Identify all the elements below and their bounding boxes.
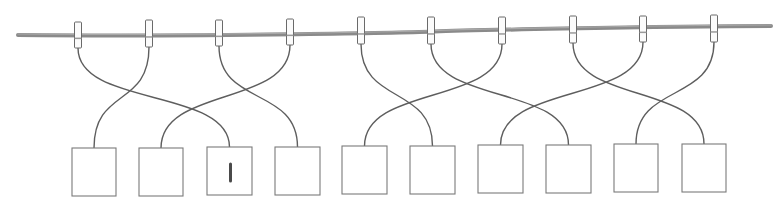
clothespin-7[interactable] [499, 17, 506, 44]
clothespin-icon [428, 17, 435, 44]
clothespin-spring [287, 35, 294, 37]
box-outline [546, 145, 591, 193]
string-clip-5-to-box-6 [361, 44, 433, 146]
string-clip-1-to-box-3 [78, 48, 230, 147]
clothespin-icon [358, 17, 365, 44]
clothespin-6[interactable] [428, 17, 435, 44]
box-outline [275, 147, 320, 195]
box-outline [139, 148, 183, 196]
clothespin-icon [287, 19, 294, 45]
clothespin-icon [216, 20, 223, 46]
answer-box-4[interactable] [275, 147, 320, 195]
clothespin-spring [75, 38, 82, 40]
box-outline [72, 148, 116, 196]
string-clip-9-to-box-7 [501, 42, 644, 145]
answer-box-10[interactable] [682, 144, 726, 192]
answer-box-7[interactable] [478, 145, 523, 193]
answer-box-6[interactable] [410, 146, 455, 194]
string-clip-10-to-box-9 [636, 42, 714, 144]
clothespin-3[interactable] [216, 20, 223, 46]
clothespin-spring [216, 36, 223, 38]
answer-box-8[interactable] [546, 145, 591, 193]
clothespin-1[interactable] [75, 22, 82, 48]
answer-box-1[interactable] [72, 148, 116, 196]
box-outline [682, 144, 726, 192]
clothespin-8[interactable] [570, 16, 577, 43]
clothesline-rope [18, 25, 771, 35]
string-clip-2-to-box-1 [94, 47, 149, 148]
clothespin-icon [499, 17, 506, 44]
string-clip-7-to-box-5 [365, 44, 503, 146]
clothespin-spring [640, 32, 647, 33]
clothespin-10[interactable] [711, 15, 718, 42]
clothespin-spring [499, 33, 506, 35]
answer-box-5[interactable] [342, 146, 387, 194]
clothespin-icon [711, 15, 718, 42]
strings [78, 42, 714, 148]
clothespin-4[interactable] [287, 19, 294, 45]
clothespin-icon [75, 22, 82, 48]
box-outline [342, 146, 387, 194]
clothespin-spring [358, 33, 365, 35]
box-outline [614, 144, 658, 192]
box-outline [410, 146, 455, 194]
answer-boxes [72, 144, 726, 196]
clothespin-spring [570, 32, 577, 34]
clothespin-spring [428, 33, 435, 35]
answer-box-2[interactable] [139, 148, 183, 196]
clothespin-icon [146, 20, 153, 47]
clothespin-2[interactable] [146, 20, 153, 47]
clothespin-9[interactable] [640, 16, 647, 42]
clothespin-5[interactable] [358, 17, 365, 44]
answer-box-3[interactable] [207, 147, 252, 195]
clothespin-icon [570, 16, 577, 43]
clothesline-puzzle [0, 0, 782, 205]
box-outline [478, 145, 523, 193]
clothespin-spring [146, 36, 153, 38]
string-clip-6-to-box-8 [431, 44, 569, 145]
clothespin-spring [711, 31, 718, 33]
clothespin-icon [640, 16, 647, 42]
answer-box-9[interactable] [614, 144, 658, 192]
